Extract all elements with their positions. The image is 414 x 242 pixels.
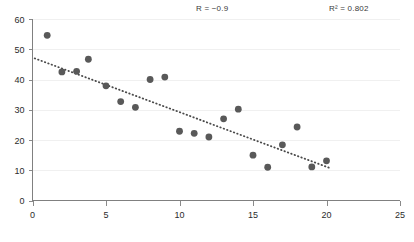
data-point — [250, 152, 257, 159]
y-tick-label-40: 40 — [14, 75, 24, 85]
x-tick-label-25: 25 — [395, 210, 405, 220]
x-tick-label-15: 15 — [248, 210, 258, 220]
data-point — [132, 104, 139, 111]
x-tick-label-20: 20 — [321, 210, 331, 220]
y-tick-label-20: 20 — [14, 136, 24, 146]
data-point — [147, 76, 154, 83]
data-point — [279, 141, 286, 148]
plot-area: 0510152025 0102030405060 — [0, 0, 414, 242]
data-point — [220, 115, 227, 122]
scatter-chart: R = −0.9 R² = 0.802 0510152025 010203040… — [0, 0, 414, 242]
data-point — [206, 134, 213, 141]
trendline-path — [35, 58, 331, 168]
y-tick-label-60: 60 — [14, 15, 24, 25]
x-axis-tick-labels: 0510152025 — [30, 210, 405, 220]
data-points — [44, 32, 330, 171]
data-point — [294, 124, 301, 131]
data-point — [235, 106, 242, 113]
data-point — [264, 164, 271, 171]
data-point — [85, 56, 92, 63]
x-tick-label-5: 5 — [103, 210, 108, 220]
data-point — [73, 68, 80, 75]
y-tick-label-0: 0 — [19, 196, 24, 206]
y-axis-tick-labels: 0102030405060 — [14, 15, 24, 207]
x-tick-label-0: 0 — [30, 210, 35, 220]
y-tick-label-10: 10 — [14, 166, 24, 176]
data-point — [44, 32, 51, 39]
data-point — [176, 128, 183, 135]
y-tick-label-50: 50 — [14, 45, 24, 55]
data-point — [59, 69, 66, 76]
gridlines — [33, 20, 401, 171]
trendline — [35, 58, 331, 168]
data-point — [323, 157, 330, 164]
tick-marks — [29, 20, 401, 206]
data-point — [191, 130, 198, 137]
x-tick-label-10: 10 — [174, 210, 184, 220]
data-point — [308, 164, 315, 171]
data-point — [161, 74, 168, 81]
data-point — [103, 82, 110, 89]
data-point — [117, 98, 124, 105]
y-tick-label-30: 30 — [14, 105, 24, 115]
